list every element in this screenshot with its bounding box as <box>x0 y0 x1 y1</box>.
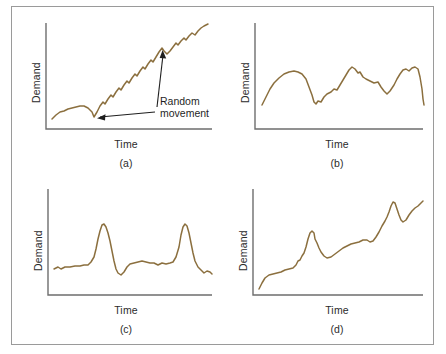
panel-a: Demand Time (a) Random movement <box>12 7 223 177</box>
figure-root: Demand Time (a) Random movement Demand T… <box>0 0 446 354</box>
panel-c-ylabel: Demand <box>32 230 44 271</box>
panel-a-caption: (a) <box>96 157 156 169</box>
panel-d: Demand Time (d) <box>223 177 434 346</box>
figure-frame: Demand Time (a) Random movement Demand T… <box>11 6 434 345</box>
panel-d-curve <box>259 201 423 289</box>
panel-d-caption: (d) <box>307 323 367 335</box>
panel-a-xlabel: Time <box>96 138 156 150</box>
panel-b-plot <box>223 7 434 177</box>
panel-a-plot <box>12 7 223 177</box>
panel-c-axes <box>48 189 212 295</box>
panel-b-caption: (b) <box>307 157 367 169</box>
panel-a-annotation-line2: movement <box>160 107 209 120</box>
panel-d-xlabel: Time <box>307 304 367 316</box>
panel-d-plot <box>223 177 434 346</box>
panel-b-curve <box>262 67 424 105</box>
panel-d-axes <box>253 189 423 295</box>
panel-b-xlabel: Time <box>307 138 367 150</box>
panel-b-axes <box>255 23 423 129</box>
panel-c-caption: (c) <box>96 323 156 335</box>
panel-a-arrow-line-trough <box>100 112 155 117</box>
panel-b: Demand Time (b) <box>223 7 434 177</box>
panel-c-curve <box>54 224 212 275</box>
panel-c-xlabel: Time <box>96 304 156 316</box>
panel-d-ylabel: Demand <box>237 230 249 271</box>
panel-c: Demand Time (c) <box>12 177 223 346</box>
panel-a-annotation-line1: Random <box>160 95 200 108</box>
panel-a-arrowhead-trough <box>97 114 106 120</box>
panel-a-ylabel: Demand <box>30 62 42 103</box>
panel-b-ylabel: Demand <box>239 62 251 103</box>
